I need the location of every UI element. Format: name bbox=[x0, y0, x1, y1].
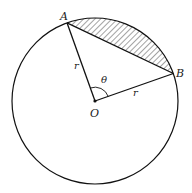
label-theta: θ bbox=[101, 74, 107, 85]
label-r-ob: r bbox=[133, 87, 139, 98]
label-b: B bbox=[175, 67, 184, 80]
label-a: A bbox=[59, 10, 68, 23]
label-r-oa: r bbox=[74, 60, 80, 71]
center-point bbox=[93, 99, 96, 102]
label-o: O bbox=[90, 107, 99, 120]
circle-segment-diagram: A B O θ r r bbox=[0, 0, 192, 193]
